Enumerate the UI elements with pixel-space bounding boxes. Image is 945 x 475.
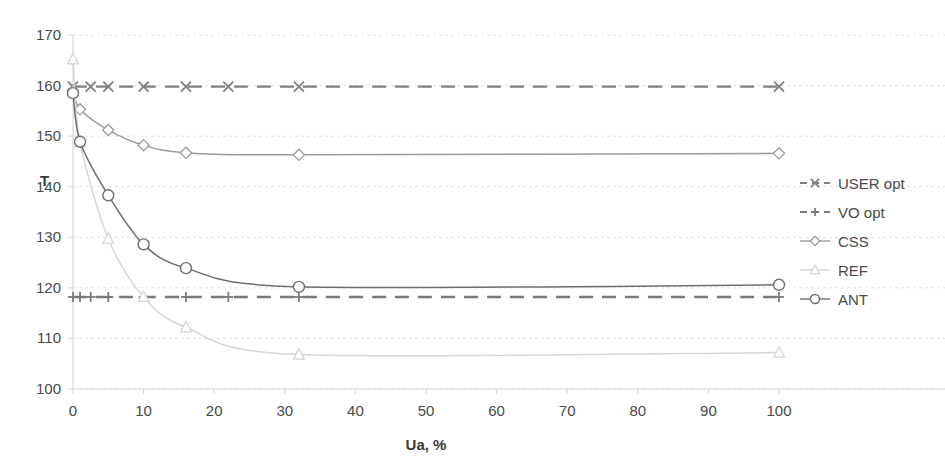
legend-item-label: USER opt — [838, 175, 906, 192]
data-point-marker-circle — [75, 136, 86, 147]
x-tick-labels-group: 0102030405060708090100 — [69, 402, 792, 419]
data-point-marker-diamond — [773, 148, 784, 159]
data-point-marker-triangle — [103, 233, 114, 244]
data-point-marker-triangle — [68, 53, 79, 64]
legend-item-label: VO opt — [838, 204, 886, 221]
legend-item-label: ANT — [838, 291, 868, 308]
axes-group — [68, 35, 945, 394]
data-point-marker-circle — [293, 281, 304, 292]
data-point-marker-plus — [103, 292, 113, 302]
x-tick-label: 50 — [418, 402, 435, 419]
data-point-marker-diamond — [103, 124, 114, 135]
y-tick-label: 110 — [37, 329, 61, 346]
legend-item-css[interactable]: CSS — [800, 233, 869, 250]
data-point-marker-circle — [774, 279, 785, 290]
y-tick-label: 130 — [36, 228, 61, 245]
data-point-marker-plus — [811, 208, 819, 216]
series-vo-opt — [68, 292, 784, 302]
series-css — [67, 85, 784, 160]
y-tick-label: 100 — [36, 380, 61, 397]
series-line — [73, 91, 779, 155]
data-point-marker-plus — [294, 292, 304, 302]
y-axis-title: T — [40, 172, 49, 189]
data-point-marker-x — [86, 82, 96, 92]
x-tick-label: 30 — [276, 402, 293, 419]
x-tick-label: 70 — [559, 402, 576, 419]
data-point-marker-triangle — [774, 347, 785, 358]
x-axis-title: Ua, % — [406, 436, 447, 453]
x-tick-label: 80 — [629, 402, 646, 419]
series-user-opt — [68, 82, 784, 92]
data-point-marker-plus — [774, 292, 784, 302]
y-tick-label: 150 — [36, 127, 61, 144]
data-point-marker-circle — [103, 190, 114, 201]
series-ant — [68, 88, 785, 293]
chart-container: 100110120130140150160170 010203040506070… — [0, 0, 945, 475]
data-point-marker-plus — [223, 292, 233, 302]
series-line — [73, 59, 779, 356]
data-point-marker-circle — [180, 263, 191, 274]
data-point-marker-x — [294, 82, 304, 92]
x-tick-label: 90 — [700, 402, 717, 419]
series-ref — [68, 53, 785, 359]
series-line — [73, 93, 779, 287]
x-tick-label: 100 — [766, 402, 791, 419]
legend-item-ref[interactable]: REF — [800, 262, 868, 279]
y-tick-label: 120 — [36, 279, 61, 296]
data-point-marker-diamond — [180, 147, 191, 158]
y-tick-label: 170 — [36, 26, 61, 43]
data-point-marker-circle — [810, 294, 819, 303]
legend-item-ant[interactable]: ANT — [800, 291, 868, 308]
x-tick-label: 40 — [347, 402, 364, 419]
legend-item-vo-opt[interactable]: VO opt — [800, 204, 886, 221]
data-point-marker-circle — [68, 88, 79, 99]
legend-item-label: CSS — [838, 233, 869, 250]
data-point-marker-diamond — [138, 140, 149, 151]
x-tick-label: 10 — [135, 402, 152, 419]
x-tick-label: 0 — [69, 402, 77, 419]
x-tick-label: 60 — [488, 402, 505, 419]
data-point-marker-circle — [138, 239, 149, 250]
legend-item-user-opt[interactable]: USER opt — [800, 175, 906, 192]
data-point-marker-plus — [86, 292, 96, 302]
line-chart: 100110120130140150160170 010203040506070… — [0, 0, 945, 475]
data-point-marker-plus — [75, 292, 85, 302]
data-point-marker-diamond — [293, 149, 304, 160]
data-series-group — [67, 53, 784, 359]
legend-item-label: REF — [838, 262, 868, 279]
data-point-marker-plus — [181, 292, 191, 302]
x-tick-label: 20 — [206, 402, 223, 419]
y-tick-label: 160 — [36, 77, 61, 94]
y-tick-labels-group: 100110120130140150160170 — [36, 26, 61, 397]
